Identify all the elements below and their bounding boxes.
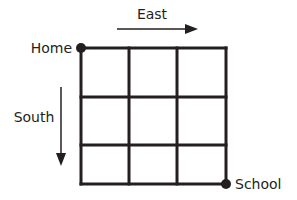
school-label: School — [235, 176, 281, 192]
east-label: East — [137, 6, 168, 22]
home-label: Home — [31, 40, 72, 56]
home-point — [76, 43, 86, 53]
south-label: South — [14, 109, 55, 125]
grid-route-diagram: Home School East South — [0, 0, 297, 200]
school-point — [221, 179, 231, 189]
south-arrow-icon — [56, 87, 66, 166]
east-arrow-icon — [117, 24, 198, 34]
grid — [81, 48, 226, 184]
